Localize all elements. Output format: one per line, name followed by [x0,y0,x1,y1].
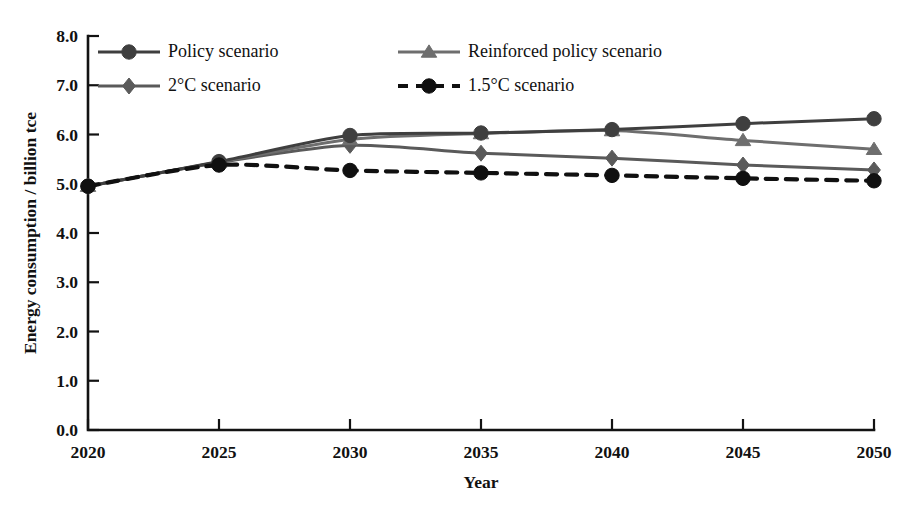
data-point-circle [81,179,95,193]
data-series-group [80,112,881,195]
data-point-diamond [475,145,488,161]
series-4 [81,158,881,194]
y-axis-ticks: 0.01.02.03.04.05.06.07.08.0 [56,26,99,440]
legend-item-4[interactable]: 1.5°C scenario [398,75,574,95]
data-point-circle [605,168,619,182]
data-point-circle [474,126,488,140]
x-tick-label: 2045 [726,442,761,462]
legend-label: 1.5°C scenario [468,75,574,95]
y-tick-label: 7.0 [56,75,78,95]
x-tick-label: 2020 [71,442,106,462]
x-axis-ticks: 2020202520302035204020452050 [71,419,892,462]
data-point-circle [212,158,226,172]
x-tick-label: 2030 [333,442,368,462]
legend-item-2[interactable]: Reinforced policy scenario [398,41,662,61]
data-point-circle [343,128,357,142]
legend-label: Policy scenario [168,41,278,61]
x-tick-label: 2035 [464,442,499,462]
y-tick-label: 6.0 [56,125,78,145]
x-tick-label: 2025 [202,442,237,462]
data-point-circle [867,112,881,126]
legend-label: 2°C scenario [168,75,261,95]
x-axis-title: Year [464,472,499,492]
data-point-circle [867,174,881,188]
data-point-circle [422,79,436,93]
legend-label: Reinforced policy scenario [468,41,662,61]
y-tick-label: 8.0 [56,26,78,46]
line-chart: 0.01.02.03.04.05.06.07.08.0 202020252030… [0,0,909,513]
y-tick-label: 1.0 [56,371,78,391]
data-point-diamond [606,150,619,166]
data-point-circle [736,116,750,130]
y-tick-label: 5.0 [56,174,78,194]
x-tick-label: 2040 [595,442,630,462]
chart-figure: 0.01.02.03.04.05.06.07.08.0 202020252030… [0,0,909,513]
data-point-diamond [123,78,136,94]
chart-legend: Policy scenarioReinforced policy scenari… [98,41,662,95]
y-tick-label: 3.0 [56,272,78,292]
data-point-circle [122,45,136,59]
legend-item-1[interactable]: Policy scenario [98,41,278,61]
x-tick-label: 2050 [857,442,892,462]
y-tick-label: 4.0 [56,223,78,243]
data-point-circle [343,163,357,177]
y-axis-title: Energy consumption / billion tce [20,112,40,354]
data-point-circle [736,171,750,185]
data-point-circle [474,166,488,180]
y-tick-label: 2.0 [56,322,78,342]
data-point-circle [605,122,619,136]
y-tick-label: 0.0 [56,420,78,440]
legend-item-3[interactable]: 2°C scenario [98,75,261,95]
